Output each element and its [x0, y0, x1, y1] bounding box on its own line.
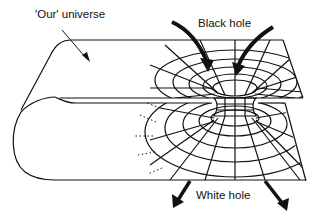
universe-label: 'Our' universe: [35, 9, 105, 21]
universe-pointer-arrow: [62, 30, 90, 62]
black-hole-label: Black hole: [198, 18, 251, 30]
wormhole-diagram: [0, 0, 324, 218]
white-hole-label: White hole: [196, 190, 250, 202]
